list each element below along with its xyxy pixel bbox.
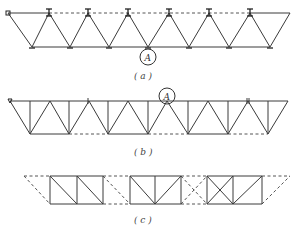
diagonal	[89, 101, 108, 134]
diagonal	[209, 13, 229, 47]
diagonal	[169, 13, 189, 47]
caption-b: ( b )	[134, 147, 153, 157]
diagonal	[250, 13, 270, 47]
diagonal	[8, 13, 32, 47]
end-diagonal-removed	[24, 176, 50, 204]
diagonal	[229, 13, 250, 47]
diagonal	[109, 13, 128, 47]
diagram-a	[6, 9, 290, 48]
marker-label: A	[163, 92, 171, 102]
diagonal	[233, 176, 262, 204]
diagonal	[167, 101, 188, 134]
diagonal	[77, 176, 103, 204]
diagonal	[155, 176, 181, 204]
end-diagonal-removed	[262, 176, 290, 204]
diagonal	[148, 101, 167, 134]
caption-c: ( c )	[134, 215, 152, 225]
diagonal	[69, 101, 89, 134]
clamp-icon	[125, 9, 131, 16]
diagonal	[189, 13, 209, 47]
diagonal	[32, 13, 49, 47]
diagonal	[88, 13, 109, 47]
diagram-c	[24, 176, 290, 204]
diagonal	[208, 101, 228, 134]
diagonal	[228, 101, 248, 134]
diagonal	[270, 13, 290, 47]
diagonal	[248, 101, 268, 134]
diagonal	[188, 101, 208, 134]
diagonal	[128, 101, 148, 134]
diagonal	[130, 176, 155, 204]
truss-figure: ( a ) ( b ) ( c ) A A	[0, 0, 298, 231]
diagonal	[50, 101, 69, 134]
marker-a-diagram-a: A	[140, 49, 156, 65]
diagram-b	[8, 98, 288, 134]
diagonal-removed	[103, 176, 130, 204]
caption-a: ( a )	[134, 71, 153, 81]
diagonal	[49, 13, 70, 47]
diagonal	[268, 101, 288, 134]
diagonal	[70, 13, 88, 47]
marker-label: A	[144, 53, 152, 63]
diagonal	[148, 13, 169, 47]
diagonal	[128, 13, 148, 47]
diagonal	[108, 101, 128, 134]
diagonal	[30, 101, 50, 134]
diagonal	[10, 101, 30, 134]
diagonal	[50, 176, 77, 204]
